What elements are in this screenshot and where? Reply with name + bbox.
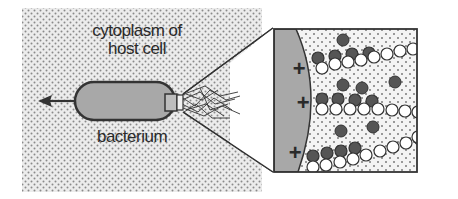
diagram-canvas bbox=[0, 0, 458, 199]
cytoplasm-label-line2: host cell bbox=[72, 40, 202, 58]
bacterium-icon bbox=[75, 82, 183, 120]
bacterium-label: bacterium bbox=[72, 128, 192, 146]
positive-charge-2: + bbox=[296, 94, 310, 112]
cytoplasm-label-line1: cytoplasm of bbox=[72, 22, 202, 40]
positive-charge-3: + bbox=[288, 144, 302, 162]
positive-charge-1: + bbox=[292, 60, 306, 78]
